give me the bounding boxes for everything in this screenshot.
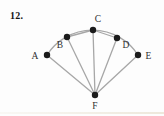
point-E: [135, 52, 141, 58]
page-edge-artifact: [0, 112, 164, 114]
point-C: [90, 27, 96, 33]
point-A: [44, 52, 50, 58]
geometry-diagram: A B C D E F: [0, 0, 164, 116]
point-D: [114, 35, 120, 41]
label-F: F: [92, 101, 97, 111]
segment-F-C: [93, 30, 95, 95]
point-F: [92, 92, 98, 98]
label-C: C: [95, 14, 101, 24]
segment-F-E: [95, 55, 138, 95]
label-E: E: [146, 51, 152, 61]
label-D: D: [123, 40, 130, 50]
label-B: B: [57, 40, 63, 50]
label-A: A: [32, 51, 39, 61]
point-B: [64, 34, 70, 40]
segment-F-B: [67, 37, 95, 95]
segment-F-A: [47, 55, 95, 95]
segment-F-D: [95, 38, 117, 95]
